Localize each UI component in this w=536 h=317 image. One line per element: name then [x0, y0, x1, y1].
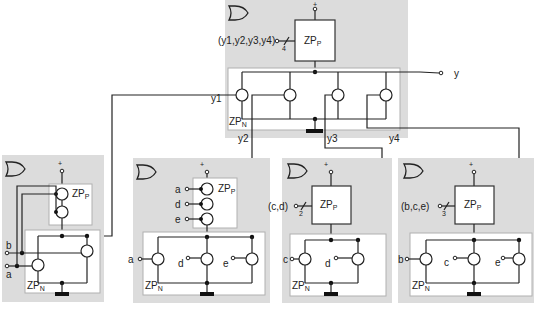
- supply-terminal: [313, 7, 317, 11]
- svg-text:c: c: [283, 254, 288, 265]
- svg-text:2: 2: [299, 210, 303, 217]
- circuit-diagram: + ZPP (y1,y2,y3,y4) 4 y ZPN: [0, 0, 536, 317]
- svg-text:+: +: [324, 161, 328, 168]
- sub-gate-y4: + ZPP (b,c,e) 3 b c e ZPN: [398, 158, 534, 303]
- svg-text:e: e: [495, 257, 501, 268]
- svg-text:e: e: [175, 214, 181, 225]
- top-bus-input-label: (y1,y2,y3,y4): [218, 35, 275, 46]
- y2-label: y2: [238, 133, 249, 144]
- svg-text:+: +: [58, 160, 62, 167]
- sub-gate-y3: + ZPP (c,d) 2 c d ZPN: [268, 158, 392, 303]
- y4-bus-input-label: (b,c,e): [401, 201, 429, 212]
- svg-text:+: +: [469, 161, 473, 168]
- svg-text:a: a: [128, 254, 134, 265]
- svg-text:c: c: [444, 257, 449, 268]
- svg-text:e: e: [223, 258, 229, 269]
- svg-text:d: d: [175, 199, 181, 210]
- input-b-terminal: [5, 251, 9, 255]
- top-ground: [306, 129, 323, 133]
- input-b-label: b: [6, 240, 12, 251]
- input-a-terminal: [5, 264, 9, 268]
- y3-label: y3: [327, 133, 338, 144]
- svg-text:b: b: [398, 254, 404, 265]
- y3-bus-input-label: (c,d): [268, 201, 288, 212]
- top-gate-module: + ZPP (y1,y2,y3,y4) 4 y ZPN: [211, 0, 459, 144]
- sub-gate-y1: + ZPP b a ZPN: [2, 155, 104, 302]
- y4-label: y4: [389, 133, 400, 144]
- svg-text:d: d: [178, 258, 184, 269]
- svg-text:d: d: [325, 258, 331, 269]
- top-output-label: y: [454, 68, 459, 79]
- svg-text:3: 3: [442, 210, 446, 217]
- svg-text:a: a: [175, 184, 181, 195]
- svg-text:+: +: [200, 161, 204, 168]
- top-bus-width: 4: [282, 45, 286, 52]
- input-a-label: a: [6, 269, 12, 280]
- sub-gate-y2: + ZPP a d e a d e ZPN: [128, 158, 270, 303]
